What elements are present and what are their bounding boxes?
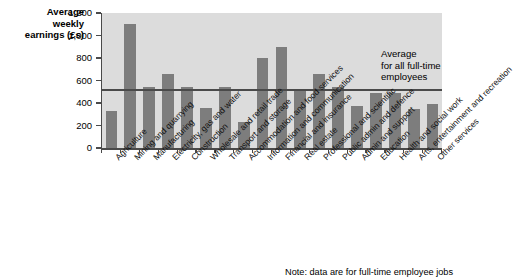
average-annotation-line-3: employees: [381, 71, 441, 83]
average-line-annotation: Average for all full-time employees: [381, 48, 441, 83]
bar: [106, 111, 118, 148]
y-axis-tick: [96, 57, 101, 58]
y-axis-tick: [96, 125, 101, 126]
y-axis-tick-label: 800: [54, 52, 92, 63]
y-axis-tick-label: 1,000: [54, 30, 92, 41]
y-axis-tick-label: 400: [54, 97, 92, 108]
y-axis-tick: [96, 35, 101, 36]
y-axis-tick: [96, 102, 101, 103]
average-annotation-line-2: for all full-time: [381, 60, 441, 72]
y-axis-tick-label: 600: [54, 75, 92, 86]
y-axis-tick-label: 0: [54, 142, 92, 153]
y-axis-tick: [96, 12, 101, 13]
bar-slot: [106, 13, 118, 148]
y-axis-title-line-2: weekly: [0, 18, 84, 30]
bar-slot: [143, 13, 155, 148]
y-axis-tick-label: 200: [54, 120, 92, 131]
bar-slot: [124, 13, 136, 148]
y-axis-tick-label: 1,200: [54, 7, 92, 18]
average-annotation-line-1: Average: [381, 48, 441, 60]
chart-footnote: Note: data are for full-time employee jo…: [285, 267, 453, 277]
bar: [124, 24, 136, 148]
x-axis-tick: [101, 149, 102, 153]
y-axis-tick: [96, 80, 101, 81]
